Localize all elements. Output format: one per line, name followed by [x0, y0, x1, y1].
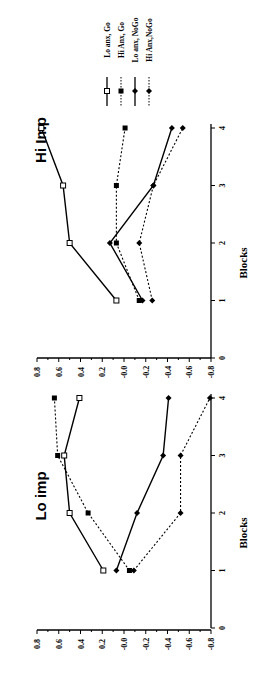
diamond-marker — [180, 125, 186, 131]
diamond-marker — [178, 510, 184, 516]
legend-label: Hi Anx, Go — [117, 22, 126, 58]
legend-label: Hi Anx,NoGo — [145, 18, 154, 62]
open-square-marker — [61, 183, 66, 188]
legend-label: Lo anx, NoGo — [131, 17, 140, 62]
diamond-marker — [149, 298, 155, 304]
open-square-marker — [67, 241, 72, 246]
filled-square-marker — [55, 453, 60, 458]
open-square-marker — [105, 89, 110, 94]
diamond-marker — [146, 88, 152, 94]
series-line — [54, 398, 129, 571]
value-tick-label: 0.6 — [55, 367, 64, 377]
x-axis-label: Blocks — [237, 517, 249, 549]
value-tick-label: -0.8 — [207, 638, 216, 651]
block-tick-label: 1 — [218, 299, 227, 303]
filled-square-marker — [123, 126, 128, 131]
value-tick-label: 0.4 — [77, 367, 86, 377]
filled-square-marker — [86, 511, 91, 516]
value-tick-label: 0.8 — [33, 639, 42, 649]
chart-panel-lo-imp: 0.80.60.40.2-0.0-0.2-0.4-0.6-0.801234Blo… — [32, 394, 249, 650]
series-line — [64, 398, 103, 571]
legend: Lo anx, GoHi Anx, GoLo anx, NoGoHi Anx,N… — [103, 17, 154, 106]
series-line — [116, 398, 168, 571]
chart-panel-hi-imp: 0.80.60.40.2-0.0-0.2-0.4-0.6-0.801234Blo… — [32, 117, 249, 378]
rotated-line-charts: 0.80.60.40.2-0.0-0.2-0.4-0.6-0.801234Blo… — [0, 0, 254, 673]
legend-label: Lo anx, Go — [103, 22, 112, 58]
block-tick-label: 3 — [218, 184, 227, 188]
x-axis-label: Blocks — [237, 247, 249, 279]
block-tick-label: 0 — [218, 626, 227, 630]
diamond-marker — [132, 88, 138, 94]
block-tick-label: 3 — [218, 454, 227, 458]
chart-title: Lo imp — [32, 471, 49, 520]
value-tick-label: -0.4 — [164, 366, 173, 379]
filled-square-marker — [114, 241, 119, 246]
block-tick-label: 2 — [218, 511, 227, 515]
diamond-marker — [134, 510, 140, 516]
chart-figure: 0.80.60.40.2-0.0-0.2-0.4-0.6-0.801234Blo… — [0, 0, 254, 673]
value-tick-label: -0.8 — [207, 366, 216, 379]
filled-square-marker — [114, 183, 119, 188]
value-tick-label: -0.0 — [120, 638, 129, 651]
diamond-marker — [169, 125, 175, 131]
value-tick-label: 0.2 — [98, 367, 107, 377]
value-tick-label: -0.0 — [120, 366, 129, 379]
open-square-marker — [77, 396, 82, 401]
value-tick-label: -0.6 — [185, 638, 194, 651]
block-tick-label: 4 — [218, 126, 227, 130]
diamond-marker — [166, 395, 172, 401]
value-tick-label: -0.2 — [142, 638, 151, 651]
block-tick-label: 2 — [218, 241, 227, 245]
value-tick-label: 0.8 — [33, 367, 42, 377]
value-tick-label: -0.2 — [142, 366, 151, 379]
diamond-marker — [160, 453, 166, 459]
block-tick-label: 1 — [218, 569, 227, 573]
diamond-marker — [136, 240, 142, 246]
diamond-marker — [113, 568, 119, 574]
block-tick-label: 0 — [218, 356, 227, 360]
value-tick-label: 0.6 — [55, 639, 64, 649]
filled-square-marker — [119, 89, 124, 94]
open-square-marker — [62, 453, 67, 458]
diamond-marker — [178, 453, 184, 459]
value-tick-label: 0.4 — [77, 639, 86, 649]
value-tick-label: -0.6 — [185, 366, 194, 379]
series-line — [139, 128, 183, 301]
filled-square-marker — [52, 396, 57, 401]
series-line — [110, 128, 172, 301]
value-tick-label: -0.4 — [164, 638, 173, 651]
open-square-marker — [114, 298, 119, 303]
value-tick-label: 0.2 — [98, 639, 107, 649]
open-square-marker — [101, 568, 106, 573]
open-square-marker — [39, 126, 44, 131]
open-square-marker — [67, 511, 72, 516]
series-line — [134, 398, 210, 571]
series-line — [41, 128, 116, 301]
diamond-marker — [207, 395, 213, 401]
block-tick-label: 4 — [218, 396, 227, 400]
